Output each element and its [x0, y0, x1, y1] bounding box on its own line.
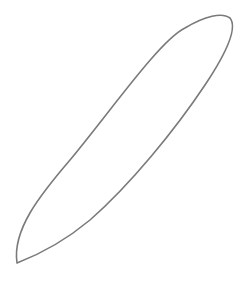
leaf-outline-shape [16, 15, 232, 263]
drawing-canvas [0, 0, 245, 281]
